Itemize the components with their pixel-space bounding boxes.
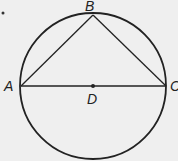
label-a: A: [3, 78, 13, 94]
segment-bc: [93, 15, 166, 86]
segment-ab: [21, 15, 93, 86]
stray-dot: [2, 12, 5, 15]
label-d: D: [87, 91, 97, 107]
center-point-d: [91, 84, 95, 88]
diagram-canvas: B A C D: [0, 0, 178, 161]
label-c: C: [170, 78, 178, 94]
label-b: B: [85, 0, 94, 14]
geometry-diagram: B A C D: [0, 0, 178, 161]
